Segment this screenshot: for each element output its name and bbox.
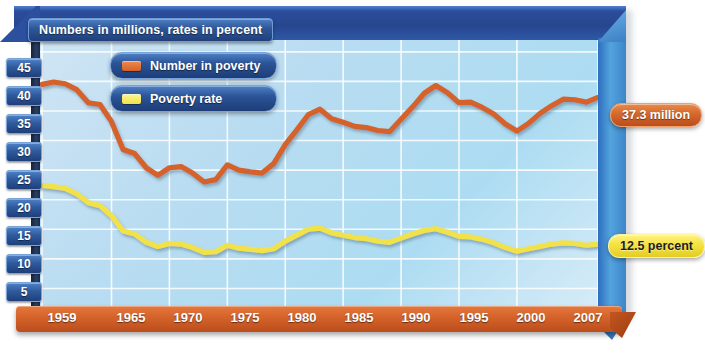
poverty-rate-value-callout: 12.5 percent: [608, 234, 705, 258]
y-tick-40: 40: [6, 86, 42, 106]
line-poverty-rate: [42, 186, 598, 253]
page-title: Numbers in millions, rates in percent: [39, 23, 262, 37]
legend-item-number-in-poverty[interactable]: Number in poverty: [110, 52, 277, 79]
legend-item-poverty-rate[interactable]: Poverty rate: [110, 85, 277, 112]
poverty-rate-value: 12.5 percent: [620, 239, 693, 253]
chart-legend: Number in poverty Poverty rate: [110, 52, 277, 112]
yellow-swatch-icon: [122, 94, 141, 104]
x-tick-1980: 1980: [288, 310, 317, 325]
y-tick-15: 15: [6, 226, 42, 246]
y-tick-45: 45: [6, 58, 42, 78]
x-tick-2000: 2000: [517, 310, 546, 325]
x-tick-1959: 1959: [48, 310, 77, 325]
legend-label-number-in-poverty: Number in poverty: [150, 59, 260, 73]
frame-right-post: [598, 38, 626, 322]
y-tick-5: 5: [6, 282, 42, 302]
number-in-poverty-value: 37.3 million: [622, 108, 690, 122]
y-tick-20: 20: [6, 198, 42, 218]
x-tick-1965: 1965: [117, 310, 146, 325]
y-tick-10: 10: [6, 254, 42, 274]
x-tick-1990: 1990: [402, 310, 431, 325]
frame-top-bevel: [14, 6, 626, 11]
legend-label-poverty-rate: Poverty rate: [150, 92, 222, 106]
number-in-poverty-value-callout: 37.3 million: [610, 103, 702, 127]
chart-title-banner: Numbers in millions, rates in percent: [28, 18, 273, 42]
x-tick-1985: 1985: [345, 310, 374, 325]
x-tick-1975: 1975: [231, 310, 260, 325]
x-tick-1995: 1995: [460, 310, 489, 325]
orange-swatch-icon: [122, 61, 141, 71]
x-tick-1970: 1970: [174, 310, 203, 325]
x-tick-2007: 2007: [574, 310, 603, 325]
y-tick-30: 30: [6, 142, 42, 162]
y-tick-35: 35: [6, 114, 42, 134]
y-tick-25: 25: [6, 170, 42, 190]
